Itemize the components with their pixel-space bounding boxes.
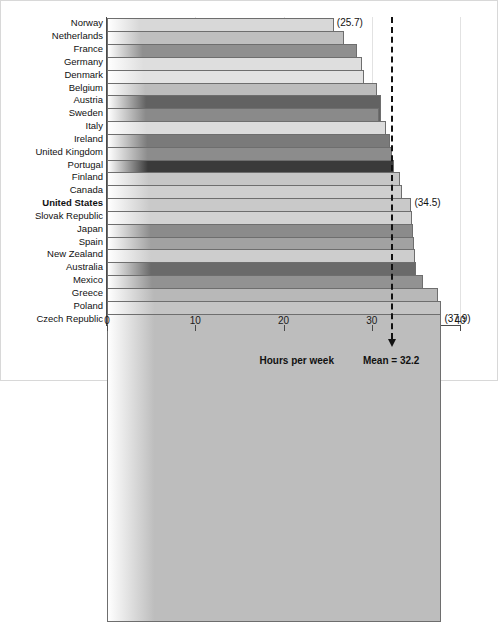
category-label: New Zealand [1, 249, 103, 259]
category-label: Ireland [1, 134, 103, 144]
category-label: Sweden [1, 108, 103, 118]
category-label: Netherlands [1, 31, 103, 41]
category-label: Italy [1, 121, 103, 131]
category-label: Belgium [1, 83, 103, 93]
category-label: Canada [1, 185, 103, 195]
bar-value-label: (25.7) [337, 18, 363, 28]
plot-area [107, 17, 460, 325]
category-label: Japan [1, 224, 103, 234]
x-tick-label-10: 10 [190, 315, 201, 326]
category-label: Finland [1, 172, 103, 182]
category-label: Germany [1, 57, 103, 67]
category-label: Czech Republic [1, 314, 103, 324]
mean-label: Mean = 32.2 [363, 355, 419, 366]
category-label: France [1, 44, 103, 54]
category-label: United States [1, 198, 103, 208]
x-tick-label-0: 0 [104, 315, 110, 326]
category-label: Portugal [1, 160, 103, 170]
mean-line [391, 17, 393, 339]
category-label: Greece [1, 288, 103, 298]
category-label: Slovak Republic [1, 211, 103, 221]
gridline-40 [460, 17, 461, 325]
x-tick-label-20: 20 [278, 315, 289, 326]
mean-arrow-icon [388, 339, 396, 347]
category-label: Denmark [1, 70, 103, 80]
category-label: Spain [1, 237, 103, 247]
bar-value-label: (37.9) [444, 314, 470, 324]
category-label: Mexico [1, 275, 103, 285]
x-axis-title: Hours per week [259, 355, 333, 366]
category-label: Norway [1, 18, 103, 28]
category-label: Poland [1, 301, 103, 311]
category-label: Australia [1, 262, 103, 272]
category-label: Austria [1, 95, 103, 105]
category-label: United Kingdom [1, 147, 103, 157]
bar-value-label: (34.5) [414, 198, 440, 208]
x-tick-label-30: 30 [366, 315, 377, 326]
